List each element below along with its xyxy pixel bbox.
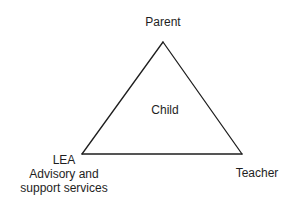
node-label-child: Child xyxy=(132,103,198,117)
lea-line-2: Advisory and xyxy=(14,167,114,181)
node-label-parent: Parent xyxy=(130,15,196,29)
node-label-lea-advisory-support: LEA Advisory and support services xyxy=(14,153,114,195)
lea-line-3: support services xyxy=(14,181,114,195)
edge-teacher-parent xyxy=(163,42,242,154)
node-label-teacher: Teacher xyxy=(228,166,286,180)
lea-line-1: LEA xyxy=(14,153,114,167)
edge-parent-lea xyxy=(82,42,163,154)
